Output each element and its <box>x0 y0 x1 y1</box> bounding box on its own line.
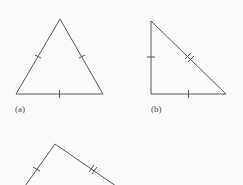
triangle-figure <box>0 0 243 185</box>
double-tick-mark <box>185 53 191 59</box>
label-b: (b) <box>151 104 162 114</box>
tick-mark <box>35 55 41 58</box>
triangle-b <box>147 21 226 98</box>
double-tick-mark <box>188 56 194 62</box>
label-a: (a) <box>15 104 25 114</box>
triangle-c <box>25 144 116 185</box>
triangle-a <box>16 19 103 98</box>
